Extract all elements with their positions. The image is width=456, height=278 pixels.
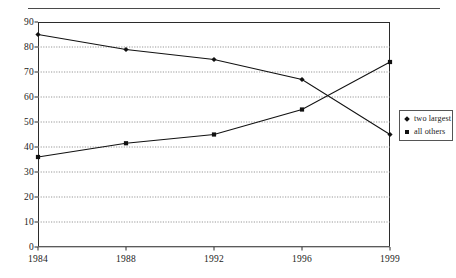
y-axis-tick-labels: 0102030405060708090 [0, 0, 34, 278]
chart-canvas [0, 0, 456, 278]
series-line-all-others [38, 62, 390, 157]
x-tick-label: 1988 [101, 254, 151, 265]
y-tick-label: 20 [4, 192, 34, 202]
y-tick-label: 90 [4, 17, 34, 27]
square-marker-icon [402, 126, 411, 137]
data-point [36, 155, 40, 159]
data-point [124, 141, 128, 145]
x-tick-label: 1996 [277, 254, 327, 265]
y-tick-label: 70 [4, 67, 34, 77]
legend-label-two-largest: two largest [414, 114, 451, 123]
data-point [212, 132, 216, 136]
y-tick-label: 30 [4, 167, 34, 177]
legend-entry-two-largest: two largest [402, 112, 451, 125]
y-tick-label: 50 [4, 117, 34, 127]
y-tick-label: 40 [4, 142, 34, 152]
diamond-marker-icon [402, 113, 411, 124]
chart-legend: two largest all others [399, 110, 453, 141]
y-tick-label: 80 [4, 42, 34, 52]
series-line-two-largest [38, 35, 390, 135]
data-point [388, 60, 392, 64]
data-point [211, 57, 216, 62]
legend-entry-all-others: all others [402, 125, 445, 138]
x-tick-label: 1992 [189, 254, 239, 265]
y-tick-label: 60 [4, 92, 34, 102]
data-point [387, 132, 392, 137]
x-tick-label: 1984 [13, 254, 63, 265]
y-tick-label: 10 [4, 217, 34, 227]
chart-figure: 0102030405060708090 19841988199219961999… [0, 0, 456, 278]
data-point [299, 77, 304, 82]
y-tick-label: 0 [4, 242, 34, 252]
x-tick-label: 1999 [365, 254, 415, 265]
legend-label-all-others: all others [414, 127, 445, 136]
data-point [300, 107, 304, 111]
series-group [35, 32, 392, 159]
data-point [35, 32, 40, 37]
data-point [123, 47, 128, 52]
